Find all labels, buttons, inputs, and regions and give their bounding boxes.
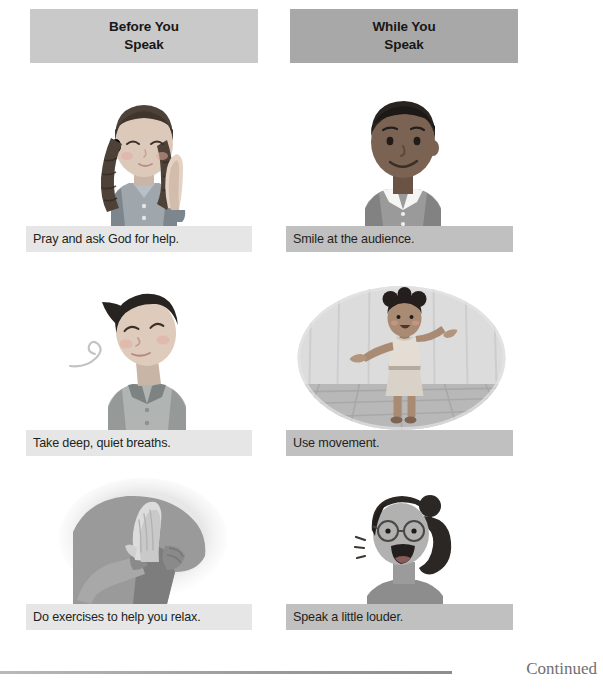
tip-caption: Smile at the audience. <box>286 226 513 252</box>
column-header-label: While You Speak <box>372 18 435 54</box>
tip-cell: Pray and ask God for help. <box>26 86 258 252</box>
page-footer: Continued <box>0 657 603 687</box>
illustration-girl-praying-braids <box>26 86 258 226</box>
tip-cell: Do exercises to help you relax. <box>26 476 258 630</box>
continued-label: Continued <box>526 659 597 679</box>
tip-caption: Use movement. <box>286 430 513 456</box>
tip-cell: Speak a little louder. <box>286 476 518 630</box>
illustration-boy-breathing-eyes-closed <box>26 280 258 430</box>
footer-divider <box>0 671 452 674</box>
worksheet-page: Before You Speak While You Speak <box>0 0 603 695</box>
tip-caption: Speak a little louder. <box>286 604 513 630</box>
tip-cell: Smile at the audience. <box>286 86 518 252</box>
illustration-boy-smiling-collared-shirt <box>286 86 518 226</box>
column-header-before-you-speak: Before You Speak <box>30 9 258 63</box>
tip-cell: Use movement. <box>286 280 518 456</box>
column-header-while-you-speak: While You Speak <box>290 9 518 63</box>
illustration-girl-glasses-speaking-loudly <box>286 476 518 604</box>
tips-grid: Pray and ask God for help. <box>0 70 603 650</box>
tip-caption: Do exercises to help you relax. <box>26 604 252 630</box>
column-header-label: Before You Speak <box>109 18 179 54</box>
illustration-hands-pressed-stretch <box>26 476 258 604</box>
illustration-girl-on-stage-arms-out <box>286 280 518 430</box>
tip-caption: Take deep, quiet breaths. <box>26 430 252 456</box>
column-header-row: Before You Speak While You Speak <box>0 9 603 63</box>
tip-cell: Take deep, quiet breaths. <box>26 280 258 456</box>
tip-caption: Pray and ask God for help. <box>26 226 252 252</box>
